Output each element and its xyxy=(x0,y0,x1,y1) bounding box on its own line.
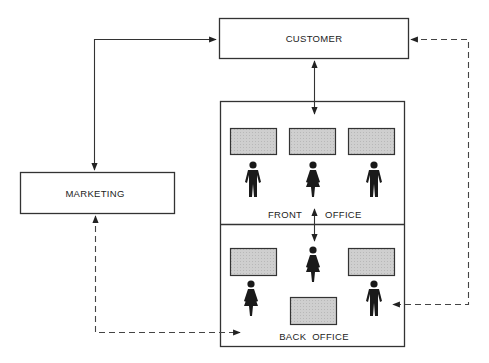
marketing-label: MARKETING xyxy=(65,188,124,199)
desk-icon xyxy=(291,298,337,325)
customer-node[interactable]: CUSTOMER xyxy=(220,19,409,59)
desk-icon xyxy=(349,249,395,276)
desk-icon xyxy=(231,249,277,276)
desk-icon xyxy=(231,129,277,155)
edge-marketing-customer xyxy=(95,40,217,171)
back-office-label: BACK OFFICE xyxy=(279,331,349,342)
service-diagram: CUSTOMER MARKETING FRONT OFFICE BACK OFF… xyxy=(0,0,489,363)
edge-marketing-back-office-dashed xyxy=(96,216,241,333)
front-office-label-left: FRONT xyxy=(268,209,302,220)
desk-icon xyxy=(349,129,395,155)
desk-icon xyxy=(290,129,336,155)
customer-label: CUSTOMER xyxy=(286,33,343,44)
marketing-node[interactable]: MARKETING xyxy=(21,173,175,214)
front-office-label-right: OFFICE xyxy=(325,209,362,220)
